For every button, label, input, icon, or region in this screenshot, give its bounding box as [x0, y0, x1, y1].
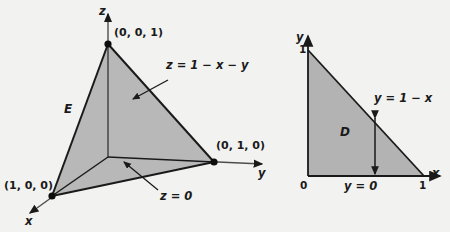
- vertex-dot-y: [210, 158, 217, 165]
- surface-label-top-plane: z = 1 − x − y: [166, 60, 249, 72]
- figure-canvas: [0, 0, 450, 232]
- vertex-label-apex: (0, 0, 1): [114, 27, 163, 38]
- boundary-label-hypotenuse: y = 1 − x: [374, 93, 432, 105]
- axis-label-x: x: [25, 216, 32, 228]
- tick-label-x-one: 1: [419, 180, 426, 191]
- region-label-d: D: [340, 126, 350, 138]
- vertex-dot-x: [48, 192, 55, 199]
- axis-label-y: y: [258, 168, 266, 180]
- axis-label-y-2d: y: [296, 32, 304, 44]
- math-figure-region-of-integration: z y x (0, 0, 1) (0, 1, 0) (1, 0, 0) E z …: [0, 0, 450, 232]
- surface-label-bottom-plane: z = 0: [160, 191, 192, 203]
- vertex-dot-apex: [104, 40, 111, 47]
- boundary-label-base: y = 0: [344, 181, 377, 193]
- axis-label-z: z: [99, 6, 106, 18]
- tick-label-origin: 0: [300, 180, 307, 191]
- vertex-label-x: (1, 0, 0): [4, 180, 53, 191]
- tick-label-y-one: 1: [299, 44, 306, 55]
- vertex-label-y: (0, 1, 0): [216, 140, 265, 151]
- axis-label-x-2d: x: [432, 168, 439, 180]
- region-label-e: E: [64, 103, 72, 115]
